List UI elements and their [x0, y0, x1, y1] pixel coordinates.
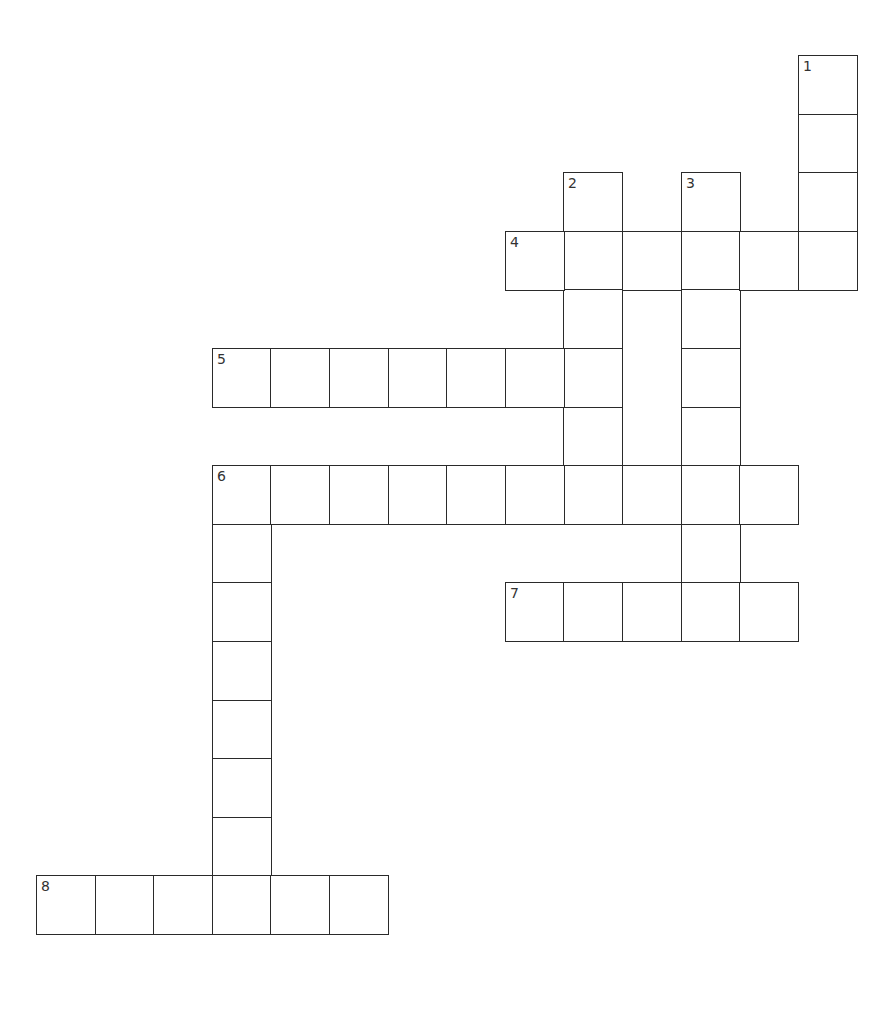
crossword-cell[interactable]: [153, 875, 213, 935]
crossword-cell[interactable]: [681, 231, 741, 291]
crossword-cell[interactable]: 5: [212, 348, 272, 408]
crossword-cell[interactable]: [681, 524, 741, 584]
crossword-cell[interactable]: [95, 875, 155, 935]
crossword-cell[interactable]: [270, 875, 330, 935]
crossword-cell[interactable]: [329, 465, 389, 525]
crossword-cell[interactable]: 4: [505, 231, 565, 291]
clue-number: 4: [510, 235, 519, 249]
crossword-cell[interactable]: [329, 875, 389, 935]
clue-number: 2: [568, 176, 577, 190]
crossword-cell[interactable]: [212, 817, 272, 877]
crossword-cell[interactable]: [329, 348, 389, 408]
crossword-cell[interactable]: [505, 348, 565, 408]
crossword-cell[interactable]: [739, 582, 799, 642]
crossword-cell[interactable]: [798, 172, 858, 232]
crossword-cell[interactable]: [563, 348, 623, 408]
crossword-cell[interactable]: [212, 875, 272, 935]
crossword-cell[interactable]: [563, 465, 623, 525]
crossword-grid: 12345678: [0, 0, 888, 1012]
clue-number: 3: [686, 176, 695, 190]
crossword-cell[interactable]: 8: [36, 875, 96, 935]
crossword-cell[interactable]: [388, 348, 448, 408]
crossword-cell[interactable]: [563, 407, 623, 467]
crossword-cell[interactable]: [212, 524, 272, 584]
crossword-cell[interactable]: 6: [212, 465, 272, 525]
crossword-cell[interactable]: [212, 758, 272, 818]
crossword-cell[interactable]: [212, 582, 272, 642]
crossword-cell[interactable]: [739, 465, 799, 525]
crossword-cell[interactable]: [270, 465, 330, 525]
crossword-cell[interactable]: [622, 231, 682, 291]
crossword-cell[interactable]: [622, 582, 682, 642]
crossword-cell[interactable]: [212, 641, 272, 701]
crossword-cell[interactable]: [739, 231, 799, 291]
crossword-cell[interactable]: [446, 465, 506, 525]
crossword-cell[interactable]: 7: [505, 582, 565, 642]
crossword-cell[interactable]: [563, 582, 623, 642]
crossword-cell[interactable]: 2: [563, 172, 623, 232]
crossword-cell[interactable]: [446, 348, 506, 408]
crossword-cell[interactable]: [681, 465, 741, 525]
crossword-cell[interactable]: [563, 231, 623, 291]
crossword-cell[interactable]: [681, 582, 741, 642]
crossword-cell[interactable]: [681, 407, 741, 467]
clue-number: 5: [217, 352, 226, 366]
clue-number: 1: [803, 59, 812, 73]
crossword-cell[interactable]: [622, 465, 682, 525]
crossword-cell[interactable]: [270, 348, 330, 408]
crossword-cell[interactable]: [505, 465, 565, 525]
crossword-cell[interactable]: [798, 114, 858, 174]
crossword-cell[interactable]: [681, 348, 741, 408]
clue-number: 7: [510, 586, 519, 600]
crossword-cell[interactable]: 3: [681, 172, 741, 232]
crossword-cell[interactable]: [212, 700, 272, 760]
clue-number: 6: [217, 469, 226, 483]
crossword-cell[interactable]: [681, 289, 741, 349]
clue-number: 8: [41, 879, 50, 893]
crossword-cell[interactable]: 1: [798, 55, 858, 115]
crossword-cell[interactable]: [388, 465, 448, 525]
crossword-cell[interactable]: [563, 289, 623, 349]
crossword-cell[interactable]: [798, 231, 858, 291]
